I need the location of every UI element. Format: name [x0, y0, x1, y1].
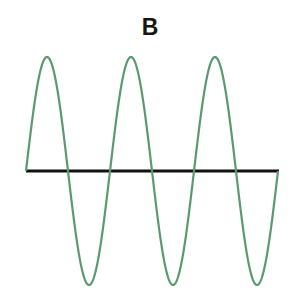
sine-wave-figure: B [0, 0, 293, 307]
wave-plot [0, 0, 293, 307]
